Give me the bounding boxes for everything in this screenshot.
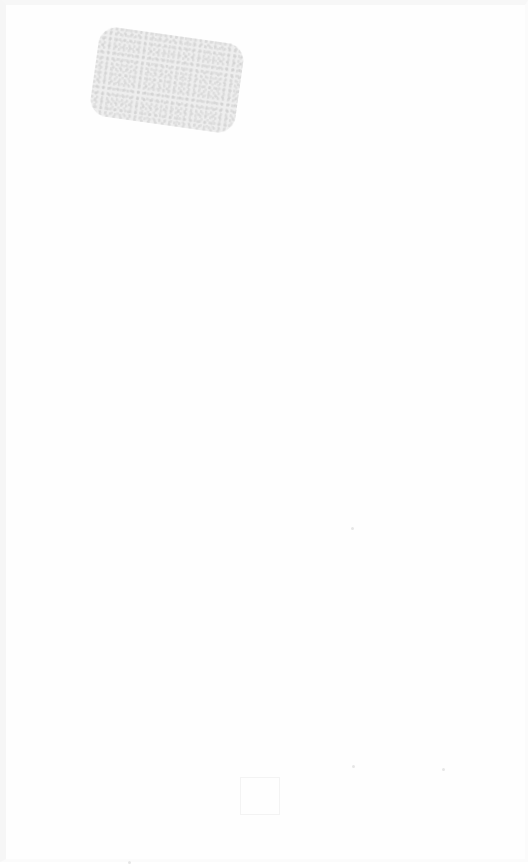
speck <box>351 527 354 530</box>
speck <box>442 768 445 771</box>
faint-stamp-mark <box>240 777 280 815</box>
gray-smudge-block <box>88 25 245 134</box>
speck <box>352 765 355 768</box>
